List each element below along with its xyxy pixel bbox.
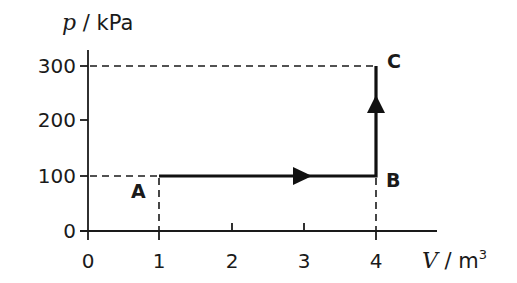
point-label-b: B bbox=[386, 169, 400, 191]
y-tick-100: 100 bbox=[38, 164, 76, 188]
y-axis-label: p / kPa bbox=[62, 10, 133, 35]
x-tick-3: 3 bbox=[298, 249, 311, 273]
arrow-right-icon bbox=[293, 167, 312, 185]
point-label-a: A bbox=[131, 180, 146, 202]
pv-diagram: 300 200 100 0 0 1 2 3 4 A B C p / kPa V … bbox=[0, 0, 517, 283]
path-a-b-c bbox=[159, 66, 376, 176]
dashed-guides bbox=[90, 66, 376, 231]
y-tick-300: 300 bbox=[38, 54, 76, 78]
y-tick-200: 200 bbox=[38, 108, 76, 132]
arrow-up-icon bbox=[367, 95, 385, 113]
x-tick-1: 1 bbox=[153, 249, 166, 273]
point-label-c: C bbox=[387, 50, 401, 72]
x-tick-4: 4 bbox=[370, 249, 383, 273]
process-path bbox=[159, 66, 376, 176]
x-axis-label: V / m3 bbox=[422, 247, 487, 273]
y-tick-0: 0 bbox=[63, 219, 76, 243]
x-tick-0: 0 bbox=[82, 249, 95, 273]
x-tick-2: 2 bbox=[226, 249, 239, 273]
axes bbox=[80, 50, 437, 240]
